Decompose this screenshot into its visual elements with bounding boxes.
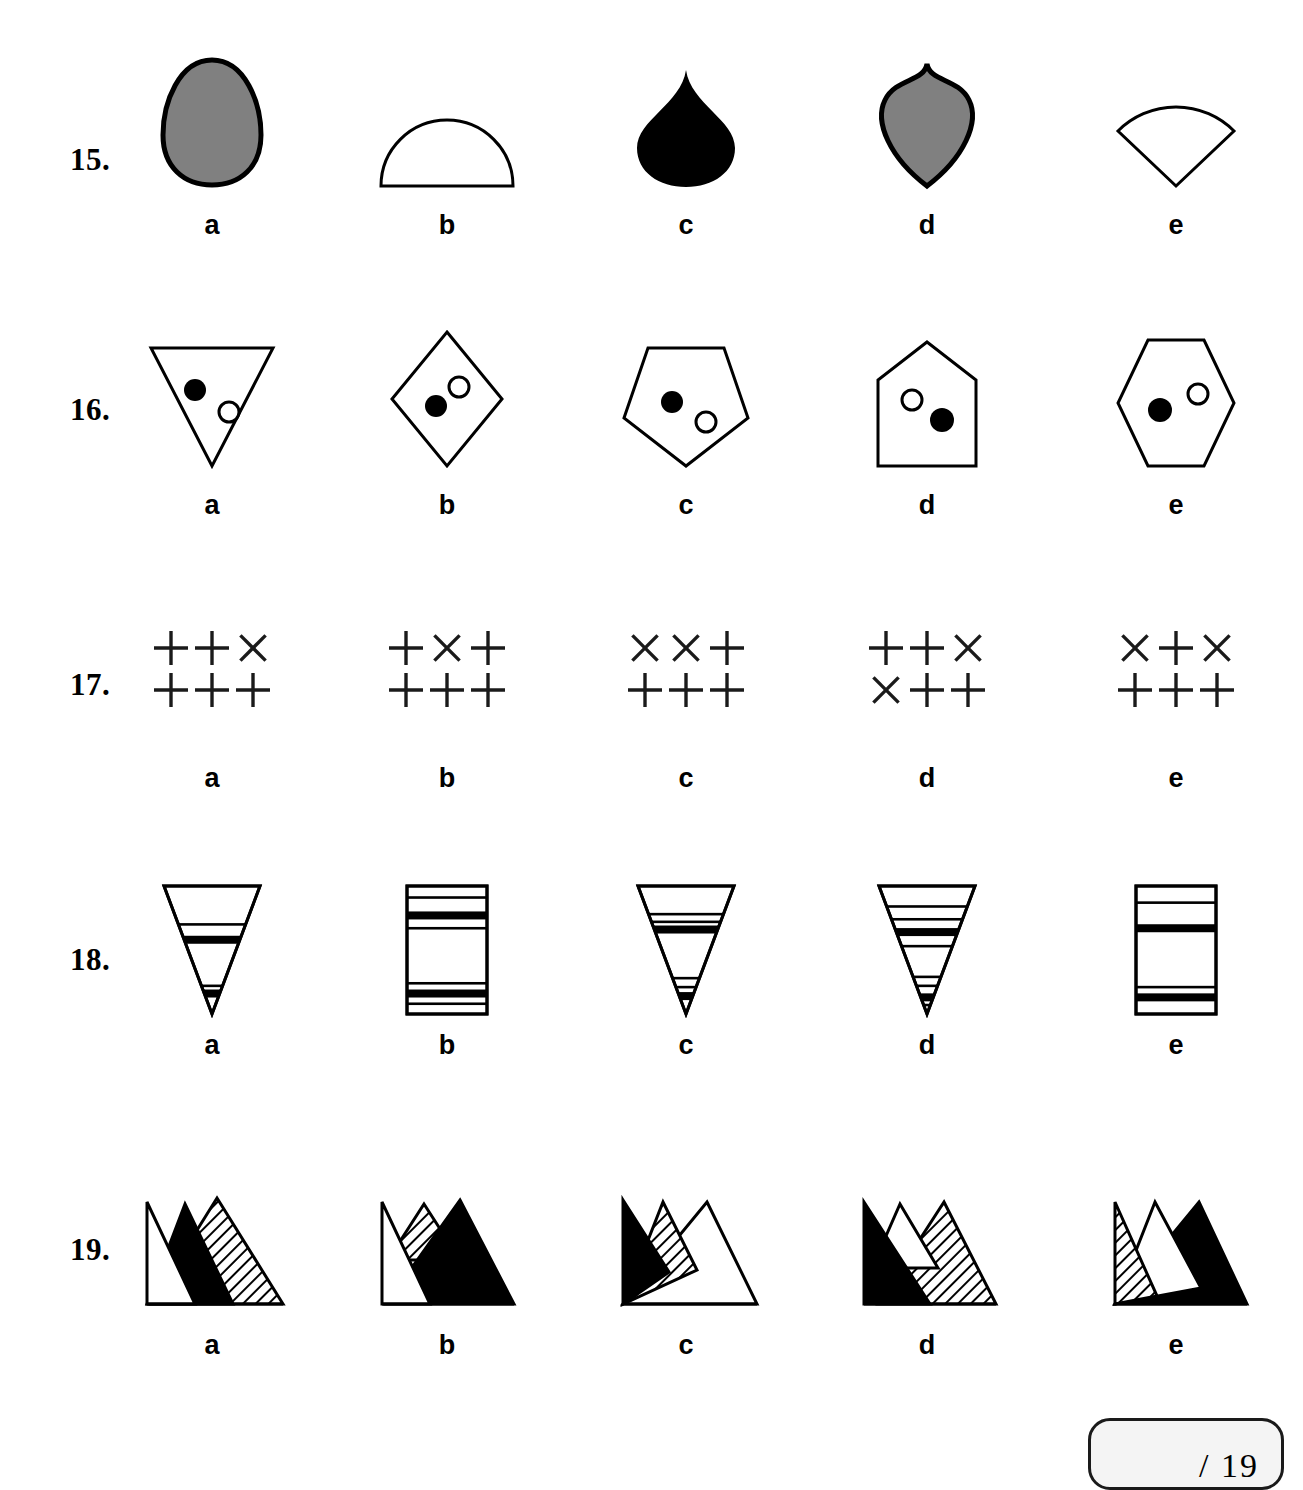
thick-band [871,993,983,1001]
filled-dot [661,391,683,413]
plus-icon [869,631,903,665]
question-row-15: 15. a b c [0,40,1303,290]
plus-icon [951,673,985,707]
option-19-d[interactable]: d [817,1170,1037,1359]
thin-band [871,945,983,948]
option-letter: d [817,765,1037,792]
option-letter: b [337,1032,557,1059]
option-17-a[interactable]: a [102,615,322,792]
option-15-b[interactable]: b [337,40,557,239]
thick-band [156,936,268,944]
thin-band [630,921,742,924]
option-letter: c [576,492,796,519]
mountain-group [576,1170,796,1310]
mountain-group [817,1170,1037,1310]
plus-icon [195,631,229,665]
symbol-grid [337,615,557,725]
option-18-c[interactable]: c [576,870,796,1059]
banded-shape [576,870,796,1020]
plus-icon [1118,673,1152,707]
shape-semicircle [337,40,557,190]
plus-icon [430,673,464,707]
plus-icon [910,673,944,707]
option-19-e[interactable]: e [1066,1170,1286,1359]
shape-teardrop [576,40,796,190]
open-dot [449,377,469,397]
option-19-b[interactable]: b [337,1170,557,1359]
question-row-16: 16. a b [0,320,1303,570]
symbol-grid [102,615,322,725]
open-dot [696,412,716,432]
plus-icon [236,673,270,707]
option-letter: a [102,212,322,239]
plus-icon [710,673,744,707]
option-letter: b [337,1332,557,1359]
filled-dot [184,379,206,401]
shape-hexagon-with-dots [1066,320,1286,470]
filled-dot [930,408,954,432]
shape-house-with-dots [817,320,1037,470]
thin-band [871,1004,983,1007]
cross-icon [434,635,459,660]
option-17-b[interactable]: b [337,615,557,792]
plus-icon [195,673,229,707]
option-18-a[interactable]: a [102,870,322,1059]
option-letter: d [817,1032,1037,1059]
plus-icon [389,673,423,707]
option-16-c[interactable]: c [576,320,796,519]
symbol-grid [576,615,796,725]
option-17-e[interactable]: e [1066,615,1286,792]
plus-icon [154,673,188,707]
symbol-grid [1066,615,1286,725]
option-15-c[interactable]: c [576,40,796,239]
banded-shape [337,870,557,1020]
question-row-17: 17. a b c d [0,615,1303,845]
option-18-b[interactable]: b [337,870,557,1059]
question-row-18: 18. a b c d [0,870,1303,1120]
option-16-b[interactable]: b [337,320,557,519]
option-18-e[interactable]: e [1066,870,1286,1059]
option-18-d[interactable]: d [817,870,1037,1059]
option-letter: a [102,765,322,792]
option-17-d[interactable]: d [817,615,1037,792]
cross-icon [632,635,657,660]
score-box[interactable]: / 19 [1088,1418,1284,1490]
cross-icon [1122,635,1147,660]
option-letter: e [1066,1032,1286,1059]
option-19-a[interactable]: a [102,1170,322,1359]
shape-pie-wedge [1066,40,1286,190]
plus-icon [1200,673,1234,707]
option-letter: d [817,492,1037,519]
option-16-a[interactable]: a [102,320,322,519]
thin-band [630,977,742,980]
option-19-c[interactable]: c [576,1170,796,1359]
cross-icon [673,635,698,660]
filled-dot [1148,398,1172,422]
plus-icon [669,673,703,707]
filled-dot [425,395,447,417]
option-15-a[interactable]: a [102,40,322,239]
option-17-c[interactable]: c [576,615,796,792]
plus-icon [471,631,505,665]
option-letter: c [576,1032,796,1059]
option-15-e[interactable]: e [1066,40,1286,239]
open-dot [902,390,922,410]
option-letter: c [576,1332,796,1359]
thick-band [630,992,742,1000]
thin-band [156,985,268,988]
plus-icon [628,673,662,707]
cross-icon [955,635,980,660]
option-16-d[interactable]: d [817,320,1037,519]
shape-pentagon-with-dots [576,320,796,470]
cross-icon [873,677,898,702]
option-letter: c [576,212,796,239]
option-letter: b [337,492,557,519]
option-16-e[interactable]: e [1066,320,1286,519]
option-letter: b [337,765,557,792]
thin-band [871,985,983,988]
banded-shape [102,870,322,1020]
plus-icon [910,631,944,665]
thick-band [156,990,268,998]
option-15-d[interactable]: d [817,40,1037,239]
banded-shape [817,870,1037,1020]
